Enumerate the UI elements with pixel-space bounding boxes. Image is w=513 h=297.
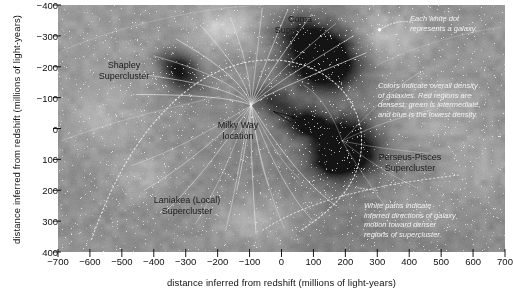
x-tick-400: 400 bbox=[401, 256, 417, 267]
x-tick--300: −300 bbox=[175, 256, 196, 267]
laniakea-boundary bbox=[92, 60, 362, 240]
x-tick-100: 100 bbox=[305, 256, 321, 267]
y-tick-400: 400 bbox=[42, 247, 58, 258]
flow-line bbox=[377, 27, 502, 66]
flow-line bbox=[342, 141, 387, 209]
galaxy-density-figure: Coma Supercluster Shapley Supercluster M… bbox=[0, 0, 513, 297]
plot-area: Coma Supercluster Shapley Supercluster M… bbox=[58, 5, 505, 252]
y-axis-title: distance inferred from redshift (million… bbox=[11, 0, 22, 264]
milky-way-marker bbox=[292, 116, 295, 119]
flow-line bbox=[251, 53, 366, 105]
y-tick-300: 300 bbox=[42, 216, 58, 227]
flow-overlay bbox=[58, 5, 505, 252]
y-tick-100: 100 bbox=[42, 154, 58, 165]
y-tick--200: −200 bbox=[37, 61, 58, 72]
flow-line bbox=[251, 105, 256, 233]
flow-line bbox=[251, 105, 336, 205]
x-tick--100: −100 bbox=[239, 256, 260, 267]
flow-line bbox=[342, 141, 428, 153]
flow-line bbox=[251, 24, 336, 106]
flow-line bbox=[342, 73, 419, 141]
x-tick--200: −200 bbox=[207, 256, 228, 267]
flow-line bbox=[230, 17, 251, 105]
milky-way-leader bbox=[274, 112, 293, 117]
flow-line bbox=[141, 75, 251, 106]
highlighted-galaxy-dot bbox=[378, 28, 381, 31]
flow-line bbox=[136, 95, 251, 106]
flow-line bbox=[131, 105, 251, 165]
x-tick-0: 0 bbox=[279, 256, 284, 267]
flow-line bbox=[61, 6, 262, 52]
y-tick--100: −100 bbox=[37, 92, 58, 103]
flow-line bbox=[202, 27, 252, 106]
flow-line bbox=[342, 110, 431, 141]
y-tick--300: −300 bbox=[37, 30, 58, 41]
laniakea-boundary-secondary bbox=[262, 175, 460, 231]
flow-line bbox=[251, 105, 285, 229]
y-tick--400: −400 bbox=[37, 0, 58, 11]
flow-line bbox=[195, 105, 251, 224]
x-tick-200: 200 bbox=[337, 256, 353, 267]
galaxy-dot-leader bbox=[381, 22, 411, 29]
x-tick--700: −700 bbox=[47, 256, 68, 267]
milky-way-leader bbox=[274, 112, 292, 123]
flow-line bbox=[251, 36, 353, 105]
x-tick--500: −500 bbox=[111, 256, 132, 267]
flow-line bbox=[304, 85, 342, 141]
x-tick--400: −400 bbox=[143, 256, 164, 267]
x-axis-title: distance inferred from redshift (million… bbox=[58, 277, 505, 288]
y-tick-200: 200 bbox=[42, 185, 58, 196]
x-tick-700: 700 bbox=[497, 256, 513, 267]
x-tick-300: 300 bbox=[369, 256, 385, 267]
x-tick-500: 500 bbox=[433, 256, 449, 267]
y-tick-0: 0 bbox=[53, 123, 58, 134]
flow-line bbox=[154, 56, 251, 105]
x-tick--600: −600 bbox=[79, 256, 100, 267]
flow-line bbox=[167, 105, 252, 210]
flow-line bbox=[237, 105, 251, 190]
flow-line bbox=[251, 8, 262, 105]
flow-line bbox=[61, 96, 221, 141]
x-tick-600: 600 bbox=[465, 256, 481, 267]
